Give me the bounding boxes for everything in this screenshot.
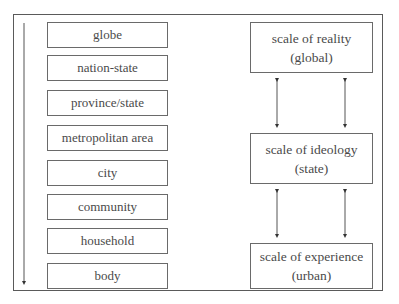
scale-box-community: community [47,194,168,220]
scale-of-ideology-title: scale of ideology [265,140,357,159]
scale-box-globe: globe [47,22,168,48]
scale-box-nation-state: nation-state [47,55,168,81]
scale-of-reality-box: scale of reality (global) [250,22,373,73]
scale-of-reality-title: scale of reality [272,29,351,48]
scale-of-reality-subtitle: (global) [290,48,333,67]
scale-of-ideology-box: scale of ideology (state) [250,133,373,184]
scale-box-body: body [47,263,168,289]
scale-box-province-state: province/state [47,90,168,116]
scale-box-metropolitan-area: metropolitan area [47,125,168,151]
scale-of-experience-box: scale of experience (urban) [250,243,373,289]
scale-of-ideology-subtitle: (state) [295,159,329,178]
scale-box-household: household [47,228,168,254]
scale-of-experience-title: scale of experience [260,247,363,266]
scale-of-experience-subtitle: (urban) [292,266,332,285]
scale-box-city: city [47,160,168,186]
